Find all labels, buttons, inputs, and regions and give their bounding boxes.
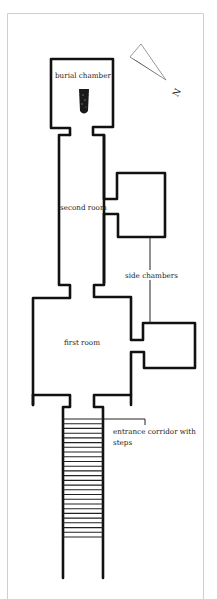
- first-room-bottom-left: [33, 395, 70, 578]
- north-arrow-icon: [130, 44, 166, 80]
- sarcophagus-icon: [79, 89, 89, 114]
- compass-n-label: N: [171, 87, 184, 99]
- entrance-leader-line: [104, 419, 145, 425]
- frame-border: [8, 14, 204, 599]
- upper-side-chamber-wall: [104, 135, 165, 237]
- second-room-label: second room: [60, 203, 107, 212]
- first-room-label: first room: [64, 338, 100, 347]
- first-room-bottom-right: [94, 395, 131, 578]
- tomb-plan-diagram: N burial chamber second room side chambe…: [0, 0, 217, 599]
- entrance-label-line1: entrance corridor with: [113, 427, 196, 436]
- entrance-steps: [63, 419, 103, 537]
- second-room-wall-right: [94, 214, 195, 405]
- second-room-wall-left: [33, 135, 70, 405]
- side-chambers-label: side chambers: [125, 271, 178, 280]
- burial-chamber-label: burial chamber: [55, 71, 111, 80]
- entrance-label-line2: steps: [113, 438, 132, 447]
